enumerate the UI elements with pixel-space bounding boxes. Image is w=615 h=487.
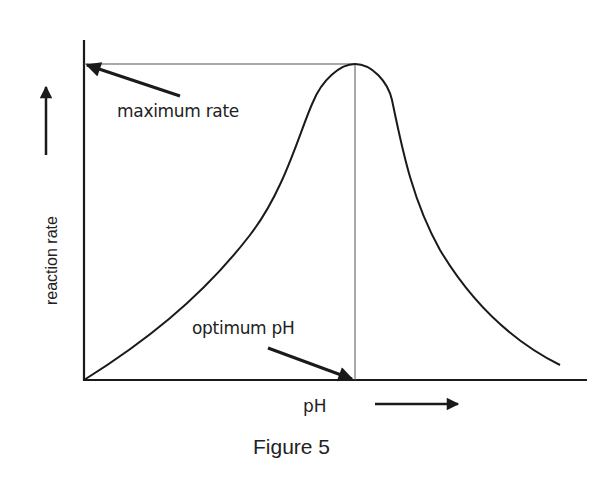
y-axis-label: reaction rate (43, 216, 61, 305)
optimum-ph-label: optimum pH (192, 318, 294, 338)
optimum-ph-arrow (268, 348, 352, 379)
figure-caption: Figure 5 (253, 435, 330, 459)
max-rate-arrow (87, 65, 180, 96)
x-axis-label: pH (303, 396, 327, 416)
max-rate-label: maximum rate (117, 101, 239, 121)
